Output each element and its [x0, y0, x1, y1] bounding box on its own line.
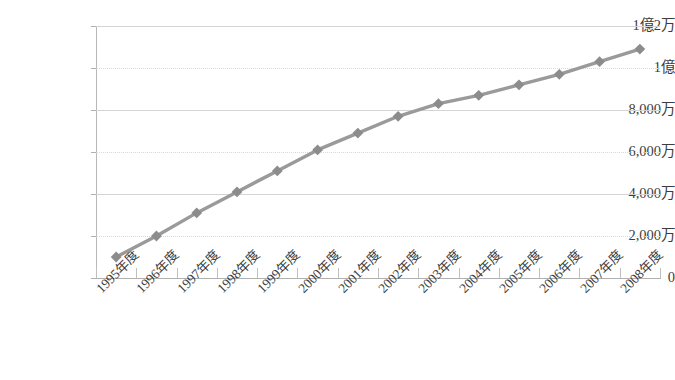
gridline	[96, 236, 660, 237]
gridline	[96, 110, 660, 111]
x-axis-tick-mark	[418, 268, 419, 278]
x-axis-tick-mark	[338, 268, 339, 278]
x-axis-tick-mark	[378, 268, 379, 278]
x-axis-tick-mark	[660, 268, 661, 278]
x-axis-tick-mark	[459, 268, 460, 278]
x-axis-tick-mark	[297, 268, 298, 278]
x-axis-tick-mark	[96, 268, 97, 278]
gridline	[96, 194, 660, 195]
gridline	[96, 152, 660, 153]
gridline	[96, 68, 660, 69]
x-axis-tick-mark	[136, 268, 137, 278]
x-axis-tick-mark	[177, 268, 178, 278]
x-axis-tick-mark	[620, 268, 621, 278]
gridline	[96, 26, 660, 27]
x-axis-tick-mark	[257, 268, 258, 278]
x-axis-tick-mark	[539, 268, 540, 278]
x-axis-tick-mark	[217, 268, 218, 278]
line-chart: 02,000万4,000万6,000万8,000万1億1億2万 1995年度19…	[0, 0, 675, 380]
plot-area	[96, 26, 660, 278]
x-axis-tick-mark	[579, 268, 580, 278]
x-axis-tick-mark	[499, 268, 500, 278]
